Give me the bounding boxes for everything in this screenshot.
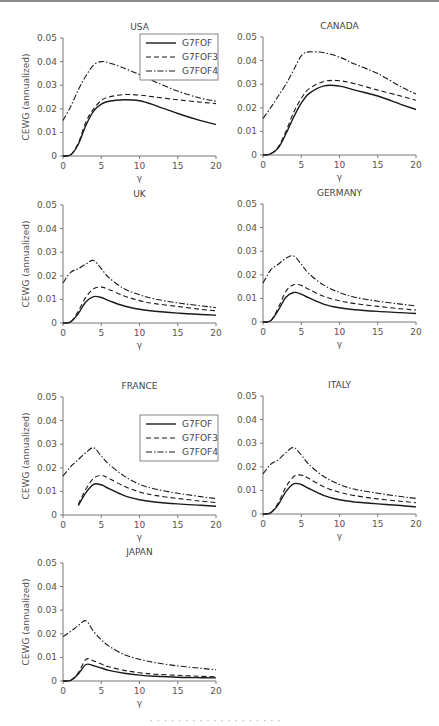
y-tick-label: 0.05 — [37, 33, 57, 43]
x-tick-label: 5 — [98, 328, 104, 338]
y-tick-label: 0.03 — [37, 80, 57, 90]
y-tick-label: 0.04 — [237, 223, 257, 233]
x-tick-label: 20 — [410, 327, 422, 337]
series-g7fof — [263, 85, 416, 155]
x-tick-label: 0 — [60, 161, 66, 171]
y-tick-label: 0.02 — [237, 103, 257, 113]
legend-label: G7FOF — [182, 419, 212, 429]
y-tick-label: 0.01 — [237, 126, 257, 136]
chart-panel-japan: JAPAN00.010.020.030.040.0505101520γCEWG … — [21, 547, 222, 708]
y-tick-label: 0.04 — [237, 56, 257, 66]
y-tick-label: 0.03 — [237, 246, 257, 256]
x-tick-label: 20 — [210, 520, 222, 530]
series-g7fof3 — [263, 80, 416, 155]
legend-label: G7FOF3 — [182, 52, 218, 62]
y-tick-label: 0.01 — [37, 127, 57, 137]
y-tick-label: 0.02 — [37, 271, 57, 281]
x-tick-label: 10 — [134, 161, 146, 171]
x-tick-label: 5 — [298, 519, 304, 529]
chart-panel-germany: GERMANY00.010.020.030.040.0505101520γ — [237, 188, 422, 349]
y-tick-label: 0.02 — [237, 462, 257, 472]
y-tick-label: 0 — [251, 150, 257, 160]
y-tick-label: 0.03 — [37, 247, 57, 257]
x-tick-label: 20 — [210, 161, 222, 171]
y-tick-label: 0 — [51, 318, 57, 328]
x-tick-label: 0 — [260, 160, 266, 170]
caption-fragment: · · · · · · · · · · · · · · · · · · · — [150, 717, 281, 726]
x-tick-label: 10 — [134, 520, 146, 530]
x-tick-label: 20 — [410, 519, 422, 529]
x-tick-label: 10 — [334, 160, 346, 170]
series-g7fof — [263, 292, 416, 322]
x-axis-label: γ — [137, 173, 143, 183]
series-g7fof4 — [263, 52, 416, 119]
chart-panel-usa: USA00.010.020.030.040.0505101520γCEWG (a… — [21, 22, 222, 183]
y-tick-label: 0.05 — [37, 392, 57, 402]
y-tick-label: 0.01 — [37, 652, 57, 662]
y-tick-label: 0.02 — [237, 270, 257, 280]
y-tick-label: 0.03 — [237, 438, 257, 448]
y-tick-label: 0.05 — [237, 391, 257, 401]
chart-panel-italy: ITALY00.010.020.030.040.0505101520γ — [237, 380, 422, 541]
x-axis-label: γ — [137, 340, 143, 350]
chart-title: GERMANY — [317, 188, 363, 198]
x-axis-label: γ — [337, 172, 343, 182]
chart-title: UK — [133, 189, 147, 199]
x-tick-label: 15 — [172, 520, 183, 530]
series-g7fof — [263, 483, 416, 514]
x-tick-label: 20 — [410, 160, 422, 170]
x-tick-label: 5 — [298, 327, 304, 337]
y-axis-label: CEWG (annualized) — [21, 54, 31, 141]
y-tick-label: 0.05 — [237, 199, 257, 209]
series-g7fof — [78, 484, 216, 507]
x-axis-label: γ — [337, 339, 343, 349]
legend-label: G7FOF4 — [182, 66, 218, 76]
x-tick-label: 0 — [60, 328, 66, 338]
x-tick-label: 15 — [172, 686, 183, 696]
y-tick-label: 0.05 — [37, 200, 57, 210]
x-tick-label: 10 — [334, 327, 346, 337]
y-tick-label: 0.02 — [37, 629, 57, 639]
series-g7fof — [63, 100, 216, 156]
x-tick-label: 0 — [260, 327, 266, 337]
y-tick-label: 0 — [251, 509, 257, 519]
x-tick-label: 0 — [60, 520, 66, 530]
legend: G7FOFG7FOF3G7FOF4 — [140, 34, 218, 80]
x-axis-label: γ — [337, 531, 343, 541]
y-tick-label: 0.04 — [37, 224, 57, 234]
chart-title: CANADA — [320, 21, 359, 31]
chart-panel-france: FRANCE00.010.020.030.040.0505101520γCEWG… — [21, 381, 222, 542]
x-tick-label: 10 — [134, 328, 146, 338]
series-g7fof3 — [263, 284, 416, 322]
x-tick-label: 5 — [98, 161, 104, 171]
y-tick-label: 0.03 — [37, 439, 57, 449]
x-tick-label: 5 — [298, 160, 304, 170]
y-tick-label: 0.04 — [237, 415, 257, 425]
x-tick-label: 15 — [172, 328, 183, 338]
x-tick-label: 15 — [172, 161, 183, 171]
y-tick-label: 0.01 — [237, 293, 257, 303]
x-tick-label: 20 — [210, 328, 222, 338]
x-tick-label: 5 — [98, 686, 104, 696]
legend-label: G7FOF3 — [182, 433, 218, 443]
chart-title: ITALY — [328, 380, 351, 390]
chart-title: USA — [130, 22, 149, 32]
y-tick-label: 0.04 — [37, 57, 57, 67]
y-tick-label: 0.04 — [37, 416, 57, 426]
y-tick-label: 0.01 — [237, 485, 257, 495]
y-tick-label: 0.01 — [37, 486, 57, 496]
y-tick-label: 0.05 — [37, 558, 57, 568]
y-tick-label: 0 — [51, 151, 57, 161]
y-tick-label: 0.03 — [237, 79, 257, 89]
legend-label: G7FOF4 — [182, 447, 218, 457]
y-tick-label: 0 — [51, 510, 57, 520]
y-tick-label: 0.05 — [237, 32, 257, 42]
y-tick-label: 0 — [251, 317, 257, 327]
y-tick-label: 0.02 — [37, 104, 57, 114]
x-tick-label: 0 — [60, 686, 66, 696]
series-g7fof3 — [263, 475, 416, 514]
x-tick-label: 15 — [372, 327, 383, 337]
series-g7fof3 — [78, 475, 216, 504]
y-axis-label: CEWG (annualized) — [21, 221, 31, 308]
y-tick-label: 0 — [51, 676, 57, 686]
